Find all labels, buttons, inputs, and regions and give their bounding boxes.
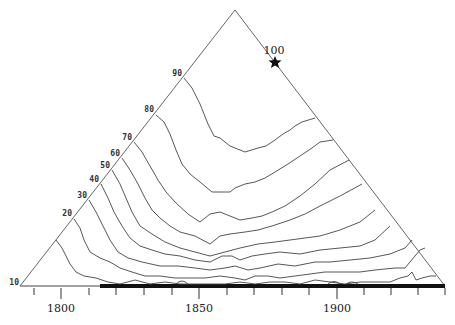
tick-label-1800: 1800 — [47, 302, 75, 315]
level-label-70: 70 — [122, 133, 132, 142]
level-label-40: 40 — [89, 175, 99, 184]
level-label-20: 20 — [62, 209, 72, 218]
tick-label-1850: 1850 — [185, 302, 213, 315]
contour-30 — [89, 200, 412, 270]
level-label-10: 10 — [9, 278, 19, 287]
tick-label-1900: 1900 — [323, 302, 351, 315]
level-label-80: 80 — [144, 105, 154, 114]
level-label-50: 50 — [100, 161, 110, 170]
triangle-frame — [20, 10, 445, 286]
contour-60 — [122, 158, 362, 244]
peak-label: 100 — [264, 44, 285, 57]
ternary-contour-chart: 1800 1850 1900 90 80 70 60 50 40 30 20 1… — [0, 0, 455, 325]
contour-80 — [156, 115, 333, 192]
contour-70 — [134, 142, 349, 222]
level-label-90: 90 — [172, 69, 182, 78]
peak-star-icon — [269, 56, 282, 68]
x-axis-ticks — [34, 288, 445, 299]
contour-lines — [56, 78, 436, 284]
contour-20 — [74, 219, 425, 280]
contour-50 — [112, 170, 375, 256]
level-label-60: 60 — [110, 149, 120, 158]
level-label-30: 30 — [77, 191, 87, 200]
